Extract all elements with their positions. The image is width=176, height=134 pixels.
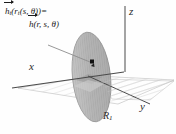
formula-line2-args: (r, s, θ) bbox=[34, 19, 59, 29]
formula-line-2: h(r, s, θ) bbox=[5, 18, 101, 31]
region-label: R1 bbox=[103, 111, 113, 122]
axis-label-y: y bbox=[140, 101, 145, 112]
formula-vector-h: h bbox=[29, 18, 34, 31]
formula-vector-h-t: h bbox=[5, 5, 10, 18]
figure-canvas: ht(rt(s, θ))= h(r, s, θ) x y z R1 bbox=[0, 0, 176, 134]
axis-label-x: x bbox=[29, 61, 34, 72]
xy-plane-front bbox=[100, 79, 174, 100]
formula-block: ht(rt(s, θ))= h(r, s, θ) bbox=[5, 5, 101, 31]
axis-label-z: z bbox=[129, 6, 133, 17]
xy-plane-front-surface bbox=[100, 79, 174, 100]
region-label-subscript: 1 bbox=[109, 114, 113, 122]
formula-line-1: ht(rt(s, θ))= bbox=[5, 5, 101, 18]
point-marker-square bbox=[90, 60, 94, 64]
